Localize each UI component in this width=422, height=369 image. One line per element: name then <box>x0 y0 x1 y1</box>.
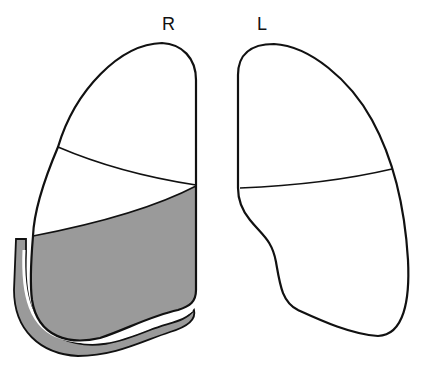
label-right: R <box>162 14 175 34</box>
lung-diagram: R L <box>0 0 422 369</box>
left-oblique-fissure <box>240 169 392 188</box>
label-left: L <box>257 14 267 34</box>
left-lung-outline <box>238 44 408 336</box>
right-horizontal-fissure <box>58 147 196 185</box>
right-lower-lobe-shaded <box>31 186 196 341</box>
